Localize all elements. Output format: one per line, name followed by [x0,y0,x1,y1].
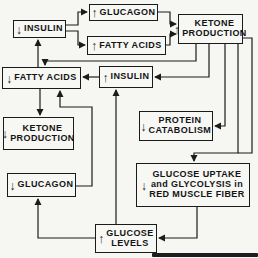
edge-insulin-down-to-fatty-acids-up [66,31,85,45]
node-label-insulin-down: INSULIN [24,24,63,34]
up-arrow-icon: ↑ [103,70,109,84]
down-arrow-icon: ↓ [2,127,8,141]
up-arrow-icon: ↑ [91,39,97,53]
up-arrow-icon: ↑ [174,22,180,36]
down-arrow-icon: ↓ [141,178,147,192]
node-label-glucose-uptake-down: GLUCOSE UPTAKEand GLYCOLYSIS inRED MUSCL… [149,170,244,200]
node-label-fatty-acids-up: FATTY ACIDS [99,41,161,51]
edge-ketone-production-up-to-glucose-uptake-junction [238,38,252,153]
edge-ketone-production-up-to-protein-catabolism-down [215,44,225,126]
node-label-protein-catabolism-down: PROTEINCATABOLISM [149,116,212,136]
scan-artifact-bar [152,253,258,257]
box-insulin-up: ↑INSULIN [99,66,153,88]
edge-glucagon-up-to-ketone-production-up [158,12,176,24]
box-glucose-uptake-down: ↓GLUCOSE UPTAKEand GLYCOLYSIS inRED MUSC… [136,163,250,207]
down-arrow-icon: ↓ [10,178,16,192]
edge-ketone-production-up-to-glucose-uptake-down [194,44,238,161]
node-label-glucagon-down: GLUCAGON [18,180,74,190]
node-label-fatty-acids-down: FATTY ACIDS [14,73,76,83]
box-fatty-acids-up: ↑FATTY ACIDS [87,36,166,55]
down-arrow-icon: ↓ [6,71,12,85]
down-arrow-icon: ↓ [141,119,147,133]
box-glucose-levels-up: ↑GLUCOSELEVELS [95,224,157,253]
box-fatty-acids-down: ↓FATTY ACIDS [2,67,81,89]
box-ketone-production-down: ↓KETONEPRODUCTION [3,117,74,150]
edge-glucose-uptake-down-to-glucose-levels-up [159,207,197,238]
up-arrow-icon: ↑ [92,6,98,20]
box-insulin-down: ↓INSULIN [13,20,66,38]
node-label-ketone-production-down: KETONEPRODUCTION [10,124,75,144]
up-arrow-icon: ↑ [98,232,104,246]
node-label-glucagon-up: GLUCAGON [100,8,156,18]
box-ketone-production-up: ↑KETONEPRODUCTION [178,14,243,44]
edge-insulin-down-to-glucagon-up [66,12,87,25]
edge-glucose-levels-up-to-glucagon-down [38,199,95,238]
node-label-ketone-production-up: KETONEPRODUCTION [182,19,247,39]
box-glucagon-down: ↓GLUCAGON [7,173,76,197]
down-arrow-icon: ↓ [16,22,22,36]
box-protein-catabolism-down: ↓PROTEINCATABOLISM [139,111,213,141]
metabolic-feedback-diagram: ↓INSULIN↑GLUCAGON↑FATTY ACIDS↑KETONEPROD… [0,0,258,258]
box-glucagon-up: ↑GLUCAGON [89,4,158,21]
node-label-insulin-up: INSULIN [111,72,150,82]
node-label-glucose-levels-up: GLUCOSELEVELS [106,229,153,249]
